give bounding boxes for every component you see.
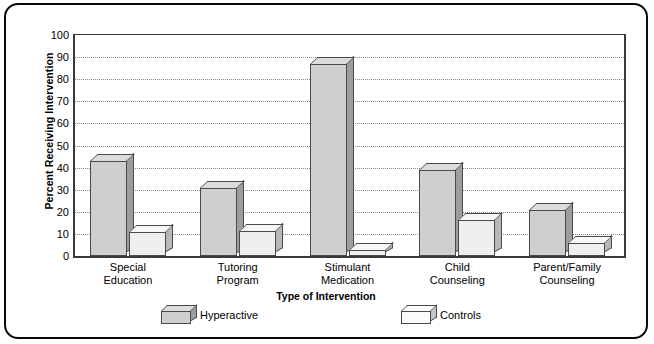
y-tick-label: 20 (57, 206, 69, 218)
bar-controls-4 (568, 243, 605, 256)
bar-face (239, 231, 276, 256)
bar-face (349, 250, 386, 256)
legend-swatch-face (401, 311, 431, 324)
y-tick-label: 10 (57, 228, 69, 240)
legend-item-hyperactive[interactable]: Hyperactive (161, 305, 258, 324)
bar-face (310, 64, 347, 256)
x-tick-label: Stimulant Medication (288, 261, 408, 287)
x-tick-label: Child Counseling (397, 261, 517, 287)
x-tick-label: Special Education (68, 261, 188, 287)
bar-top (419, 163, 464, 170)
bar-top (458, 213, 503, 220)
y-tick-label: 60 (57, 117, 69, 129)
bar-top (200, 181, 245, 188)
bar-face (90, 161, 127, 256)
bar-hyperactive-0 (90, 161, 127, 256)
plot-area: 0102030405060708090100 (73, 34, 626, 258)
y-axis-title: Percent Receiving Intervention (43, 26, 55, 236)
bar-hyperactive-4 (529, 210, 566, 256)
bar-face (200, 188, 237, 257)
y-tick-label: 40 (57, 162, 69, 174)
bar-top (349, 243, 394, 250)
x-tick-label: Tutoring Program (178, 261, 298, 287)
bar-controls-2 (349, 250, 386, 256)
bar-hyperactive-2 (310, 64, 347, 256)
bar-top (529, 203, 574, 210)
legend-swatch-icon (161, 311, 191, 324)
x-tick-label: Parent/Family Counseling (507, 261, 627, 287)
bar-top (239, 224, 284, 231)
bar-face (568, 243, 605, 256)
legend-label: Hyperactive (200, 309, 258, 321)
legend-swatch-icon (401, 311, 431, 324)
legend-item-controls[interactable]: Controls (401, 305, 481, 324)
bar-face (458, 220, 495, 256)
bar-controls-1 (239, 231, 276, 256)
bar-top (129, 225, 174, 232)
chart-legend: HyperactiveControls (6, 305, 646, 339)
bar-controls-0 (129, 232, 166, 256)
y-tick-label: 90 (57, 51, 69, 63)
bar-hyperactive-1 (200, 188, 237, 257)
y-tick-label: 30 (57, 184, 69, 196)
bar-top (568, 236, 613, 243)
bar-face (129, 232, 166, 256)
bar-controls-3 (458, 220, 495, 256)
bar-top (90, 154, 135, 161)
y-tick-label: 100 (51, 29, 69, 41)
y-tick-label: 80 (57, 73, 69, 85)
bar-side (347, 56, 354, 252)
bar-face (529, 210, 566, 256)
y-tick-label: 70 (57, 95, 69, 107)
legend-label: Controls (440, 309, 481, 321)
x-axis-title: Type of Intervention (6, 290, 646, 302)
bar-face (419, 170, 456, 256)
y-tick-label: 50 (57, 140, 69, 152)
figure-frame: Percent Receiving Intervention 010203040… (4, 3, 648, 339)
legend-swatch-face (161, 311, 191, 324)
bar-top (310, 57, 355, 64)
bar-hyperactive-3 (419, 170, 456, 256)
